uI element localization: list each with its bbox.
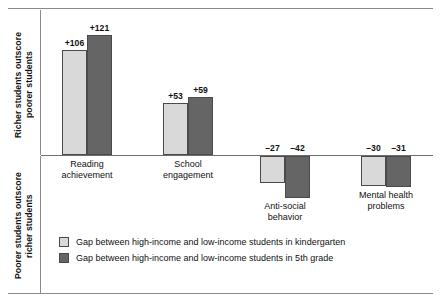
category-label-antisocial: Anti-social behavior	[245, 201, 325, 222]
bar-reading-kindergarten	[62, 50, 87, 155]
bar-value-reading-5th-grade: +121	[80, 23, 119, 33]
legend-item-kindergarten: Gap between high-income and low-income s…	[59, 234, 345, 250]
category-label-mentalhealth: Mental health problems	[346, 190, 426, 211]
top-divider-rule	[8, 8, 433, 9]
bar-antisocial-5th-grade	[285, 156, 310, 198]
bar-value-school-5th-grade: +59	[182, 85, 219, 95]
axis-caption-lower: Poorer students outscore richer students	[13, 158, 37, 294]
bar-school-kindergarten	[163, 103, 188, 155]
legend-swatch-kindergarten	[59, 237, 69, 247]
bar-school-5th-grade	[188, 97, 213, 155]
legend-swatch-5th-grade	[59, 253, 69, 263]
bar-antisocial-kindergarten	[260, 156, 285, 183]
legend-label-kindergarten: Gap between high-income and low-income s…	[76, 237, 345, 247]
bar-mentalhealth-5th-grade	[386, 156, 411, 187]
bar-value-mentalhealth-5th-grade: –31	[380, 143, 417, 153]
chart-figure: Richer students outscore poorer students…	[0, 0, 441, 307]
legend-item-5th-grade: Gap between high-income and low-income s…	[59, 250, 345, 266]
legend-label-5th-grade: Gap between high-income and low-income s…	[76, 253, 333, 263]
bar-value-antisocial-5th-grade: –42	[279, 143, 316, 153]
chart-legend: Gap between high-income and low-income s…	[59, 234, 345, 266]
axis-caption-upper: Richer students outscore poorer students	[13, 16, 37, 154]
category-label-school: School engagement	[148, 159, 228, 180]
category-label-reading: Reading achievement	[47, 159, 127, 180]
bar-reading-5th-grade	[87, 35, 112, 155]
bar-mentalhealth-kindergarten	[361, 156, 386, 186]
